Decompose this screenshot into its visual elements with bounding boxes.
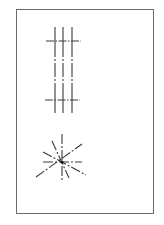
center-point <box>60 160 63 163</box>
ray-line <box>43 152 86 175</box>
figure-frame <box>17 10 154 214</box>
ray-line <box>36 144 82 177</box>
parallel-line-grid <box>45 27 81 117</box>
diagram-canvas <box>0 0 164 225</box>
starburst-figure <box>36 134 86 182</box>
ray-line <box>52 141 69 178</box>
